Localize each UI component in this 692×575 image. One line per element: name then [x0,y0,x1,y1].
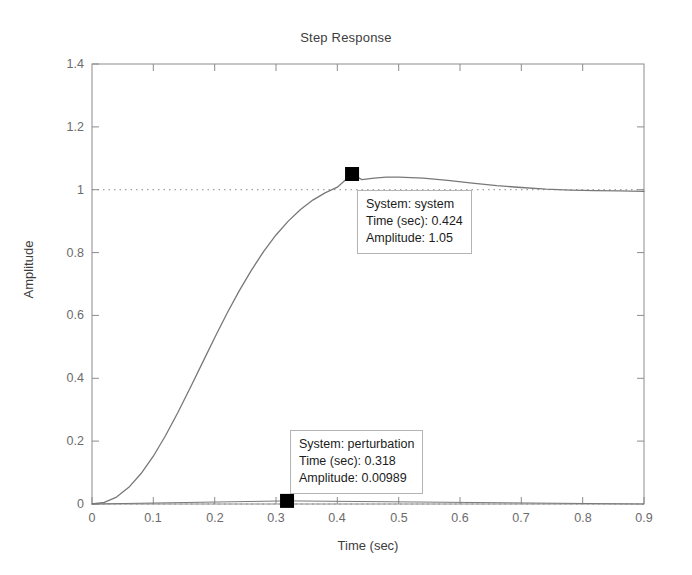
system-datatip-amplitude: Amplitude: 1.05 [366,230,463,247]
y-tick-label-6: 1.2 [38,120,84,134]
y-axis-ticks [92,64,99,504]
x-tick-label-9: 0.9 [622,511,666,525]
x-axis-ticks-top [153,64,582,71]
perturbation-datatip[interactable]: System: perturbation Time (sec): 0.318 A… [290,430,423,494]
perturbation-datatip-amplitude: Amplitude: 0.00989 [299,470,414,487]
x-tick-label-2: 0.2 [193,511,237,525]
perturbation-marker[interactable] [280,494,294,508]
y-tick-label-4: 0.8 [38,246,84,260]
y-tick-label-0: 0 [38,497,84,511]
x-tick-label-4: 0.4 [315,511,359,525]
y-tick-label-2: 0.4 [38,371,84,385]
x-tick-label-3: 0.3 [254,511,298,525]
x-tick-label-7: 0.7 [499,511,543,525]
perturbation-datatip-time: Time (sec): 0.318 [299,453,414,470]
x-tick-label-0: 0 [70,511,114,525]
system-datatip-time: Time (sec): 0.424 [366,213,463,230]
y-tick-label-1: 0.2 [38,434,84,448]
step-response-figure: Step Response Amplitude Time (sec) [0,0,692,575]
x-tick-label-1: 0.1 [131,511,175,525]
y-axis-ticks-right [637,127,644,441]
system-peak-marker[interactable] [345,167,359,181]
system-datatip-system: System: system [366,196,463,213]
perturbation-datatip-system: System: perturbation [299,436,414,453]
x-tick-label-5: 0.5 [377,511,421,525]
x-tick-label-8: 0.8 [561,511,605,525]
y-tick-label-3: 0.6 [38,308,84,322]
y-tick-label-5: 1 [38,183,84,197]
y-tick-label-7: 1.4 [38,57,84,71]
system-datatip[interactable]: System: system Time (sec): 0.424 Amplitu… [357,190,472,254]
x-tick-label-6: 0.6 [438,511,482,525]
